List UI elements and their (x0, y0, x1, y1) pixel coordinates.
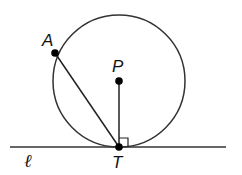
point-t (115, 143, 123, 151)
label-a: A (41, 31, 53, 50)
point-a (51, 49, 59, 57)
geometry-diagram: A P T ℓ (0, 0, 242, 175)
point-p (115, 77, 123, 85)
label-p: P (112, 57, 124, 76)
chord-at (55, 53, 119, 147)
label-line: ℓ (24, 151, 32, 171)
label-t: T (112, 153, 124, 172)
